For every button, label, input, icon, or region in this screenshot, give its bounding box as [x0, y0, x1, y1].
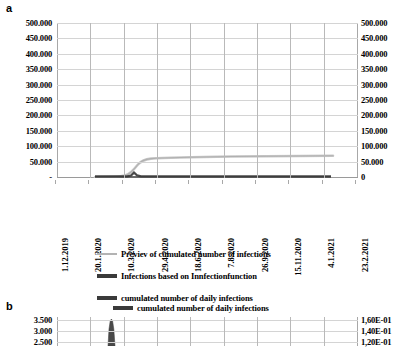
panel-a-y-tick-left: 400.000 — [26, 50, 52, 59]
gridline-vertical — [190, 317, 191, 346]
gridline-vertical — [190, 23, 191, 178]
gridline-horizontal — [57, 100, 358, 101]
legend-label-infectionfunction: Infections based on Innfectionfunction — [121, 271, 257, 281]
gridline-vertical — [290, 23, 291, 178]
panel-a-x-tick-mark — [222, 180, 223, 184]
legend-swatch-infectionfunction-line — [97, 274, 117, 278]
panel-b-letter: b — [6, 301, 13, 312]
gridline-horizontal — [57, 162, 358, 163]
gridline-vertical — [124, 317, 125, 346]
panel-a-x-axis: 1.12.201920.1.202010.3.202029.4.202018.6… — [0, 180, 401, 242]
panel-a-y-tick-right: 150.000 — [361, 127, 387, 136]
panel-a-x-tick-mark — [255, 180, 256, 184]
panel-a-x-tick-mark — [155, 180, 156, 184]
panel-b-y-tick-left: 2.500 — [34, 338, 52, 347]
legend-item-infectionfunction: Infections based on Innfectionfunction — [97, 270, 257, 282]
panel-a-x-tick-mark — [55, 180, 56, 184]
panel-b-y-axis-right: 1,60E-011,40E-011,20E-01 — [361, 317, 401, 346]
panel-b-y-tick-right: 1,20E-01 — [361, 338, 391, 347]
gridline-vertical — [324, 23, 325, 178]
gridline-horizontal — [57, 85, 358, 86]
gridline-horizontal — [57, 146, 358, 147]
panel-a-y-axis-left: 500.000450.000400.000350.000300.000250.0… — [0, 23, 52, 178]
legend-swatch-panel-b-line — [113, 306, 133, 310]
gridline-vertical — [90, 317, 91, 346]
legend-label-preview: Previev of cumulated number of infection… — [121, 249, 271, 259]
panel-b-y-tick-right: 1,40E-01 — [361, 327, 391, 336]
panel-a-y-tick-right: 450.000 — [361, 34, 387, 43]
gridline-horizontal — [57, 69, 358, 70]
panel-a-y-tick-left: 500.000 — [26, 19, 52, 28]
panel-a-y-tick-left: 300.000 — [26, 80, 52, 89]
gridline-horizontal — [57, 54, 358, 55]
panel-a-x-tick-mark — [88, 180, 89, 184]
panel-a-x-tick-mark — [188, 180, 189, 184]
gridline-horizontal — [57, 331, 358, 332]
panel-a-y-tick-left: 200.000 — [26, 111, 52, 120]
series-preview-curve — [95, 156, 333, 178]
panel-a-y-tick-left: 50.000 — [30, 157, 52, 166]
panel-a-y-tick-right: 300.000 — [361, 80, 387, 89]
panel-a-y-tick-right: 100.000 — [361, 142, 387, 151]
gridline-vertical — [224, 317, 225, 346]
gridline-horizontal — [57, 342, 358, 343]
legend-swatch-preview-line — [97, 253, 117, 255]
panel-b-legend: cumulated number of daily infections — [113, 302, 269, 314]
legend-item-preview: Previev of cumulated number of infection… — [97, 248, 271, 260]
panel-a-y-tick-left: 250.000 — [26, 96, 52, 105]
panel-a-y-tick-left: 450.000 — [26, 34, 52, 43]
panel-a-y-tick-right: 200.000 — [361, 111, 387, 120]
gridline-horizontal — [57, 115, 358, 116]
gridline-vertical — [324, 317, 325, 346]
panel-a-y-tick-right: 50.000 — [361, 157, 383, 166]
panel-a-x-tick-mark — [322, 180, 323, 184]
gridline-vertical — [290, 317, 291, 346]
panel-a-x-tick-mark — [355, 180, 356, 184]
panel-a-y-tick-right: 350.000 — [361, 65, 387, 74]
gridline-vertical — [257, 317, 258, 346]
panel-b-y-tick-left: 3.000 — [34, 327, 52, 336]
gridline-horizontal — [57, 320, 358, 321]
gridline-vertical — [157, 317, 158, 346]
legend-label-panel-b: cumulated number of daily infections — [137, 303, 269, 313]
gridline-vertical — [257, 23, 258, 178]
gridline-horizontal — [57, 38, 358, 39]
panel-b-y-tick-right: 1,60E-01 — [361, 316, 391, 325]
panel-a-x-tick-mark — [122, 180, 123, 184]
panel-b-y-tick-left: 3.500 — [34, 316, 52, 325]
panel-a-y-tick-right: 500.000 — [361, 19, 387, 28]
panel-b-y-axis-left: 3.5003.0002.500 — [0, 317, 52, 346]
panel-a-plot-area — [57, 23, 358, 178]
panel-a-x-tick-mark — [288, 180, 289, 184]
gridline-vertical — [90, 23, 91, 178]
panel-a-y-axis-right: 500.000450.000400.000350.000300.000250.0… — [361, 23, 401, 178]
gridline-vertical — [224, 23, 225, 178]
panel-a-y-tick-right: 250.000 — [361, 96, 387, 105]
panel-b-plot-area — [57, 317, 358, 346]
gridline-vertical — [157, 23, 158, 178]
panel-a-y-tick-left: 150.000 — [26, 127, 52, 136]
panel-b: b cumulated number of daily infections 3… — [0, 300, 401, 346]
panel-a-y-tick-left: 350.000 — [26, 65, 52, 74]
panel-a-y-tick-right: 400.000 — [361, 50, 387, 59]
series-preview-curve-core — [95, 156, 333, 178]
gridline-vertical — [124, 23, 125, 178]
gridline-horizontal — [57, 131, 358, 132]
panel-a: a 500.000450.000400.000350.000300.000250… — [0, 0, 401, 245]
panel-a-legend: Previev of cumulated number of infection… — [0, 246, 401, 308]
panel-a-y-tick-left: 100.000 — [26, 142, 52, 151]
gridline-horizontal — [57, 23, 358, 24]
panel-a-letter: a — [6, 3, 12, 14]
